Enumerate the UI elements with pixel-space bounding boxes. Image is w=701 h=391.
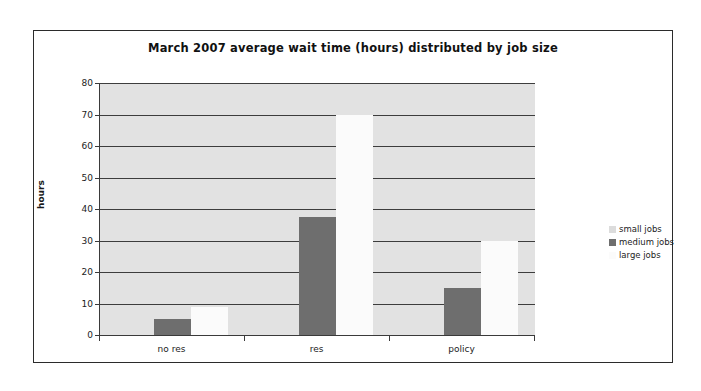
y-tick-label: 80 (63, 78, 93, 88)
bar (191, 307, 228, 335)
bar (444, 288, 481, 335)
bar (336, 115, 373, 336)
legend-swatch-icon (609, 252, 616, 259)
legend-item-label: medium jobs (619, 237, 674, 247)
chart-screenshot: March 2007 average wait time (hours) dis… (0, 0, 701, 391)
legend-swatch-icon (609, 239, 616, 246)
plot-area (99, 83, 535, 336)
legend-item-label: small jobs (619, 224, 662, 234)
legend-swatch-icon (609, 226, 616, 233)
x-tick-mark (534, 336, 535, 341)
gridline (100, 178, 535, 179)
y-axis-label: hours (36, 180, 46, 209)
chart-title: March 2007 average wait time (hours) dis… (34, 41, 672, 55)
legend-item[interactable]: large jobs (609, 249, 701, 261)
x-category-label: policy (448, 344, 475, 354)
legend-item-label: large jobs (619, 250, 661, 260)
chart-frame: March 2007 average wait time (hours) dis… (33, 30, 673, 363)
bar (154, 319, 191, 335)
x-tick-mark (244, 336, 245, 341)
gridline (100, 83, 535, 84)
y-tick-label: 30 (63, 236, 93, 246)
bar (481, 241, 518, 336)
y-tick-label: 10 (63, 299, 93, 309)
x-category-label: no res (158, 344, 186, 354)
legend-item[interactable]: medium jobs (609, 236, 701, 248)
legend-item[interactable]: small jobs (609, 223, 701, 235)
gridline (100, 146, 535, 147)
x-tick-mark (99, 336, 100, 341)
y-tick-label: 70 (63, 110, 93, 120)
x-tick-mark (389, 336, 390, 341)
bar (299, 217, 336, 335)
y-tick-label: 40 (63, 204, 93, 214)
y-tick-label: 0 (63, 330, 93, 340)
y-tick-label: 60 (63, 141, 93, 151)
y-tick-label: 20 (63, 267, 93, 277)
gridline (100, 115, 535, 116)
y-tick-label: 50 (63, 173, 93, 183)
x-category-label: res (310, 344, 324, 354)
gridline (100, 209, 535, 210)
chart-legend: small jobsmedium jobslarge jobs (609, 223, 701, 262)
